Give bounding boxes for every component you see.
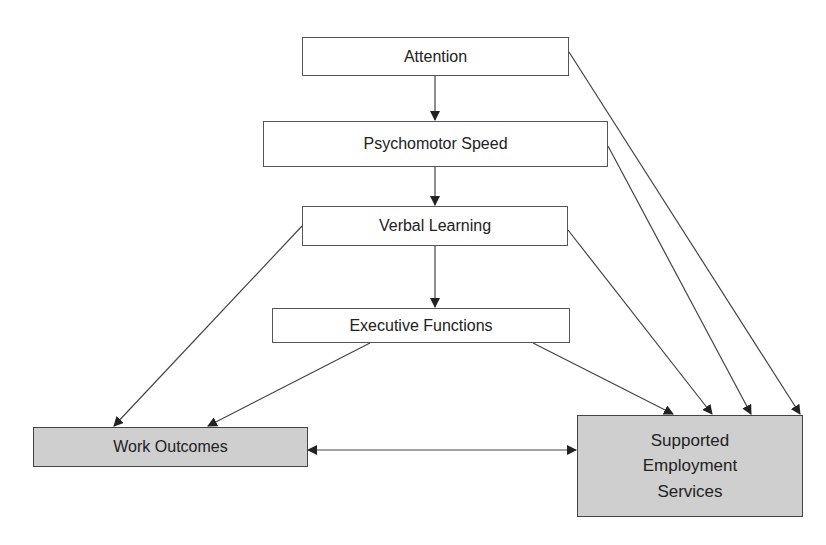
edge-executive-work: [208, 343, 370, 426]
node-work-outcomes: Work Outcomes: [33, 427, 308, 467]
node-supported-employment-services: Supported Employment Services: [577, 415, 803, 517]
edge-attention-ses: [569, 52, 800, 414]
node-label: Psychomotor Speed: [363, 132, 507, 155]
node-executive-functions: Executive Functions: [272, 308, 570, 343]
node-label: Supported Employment Services: [643, 428, 737, 505]
node-attention: Attention: [302, 37, 569, 76]
node-verbal-learning: Verbal Learning: [302, 206, 568, 246]
node-label: Attention: [404, 45, 467, 68]
node-label: Executive Functions: [349, 314, 492, 337]
edge-verbal-ses: [568, 230, 712, 414]
edge-psychomotor-ses: [608, 146, 751, 414]
node-label: Verbal Learning: [379, 214, 491, 237]
node-label: Work Outcomes: [113, 435, 227, 458]
node-psychomotor-speed: Psychomotor Speed: [263, 121, 608, 167]
edge-executive-ses: [533, 343, 673, 414]
